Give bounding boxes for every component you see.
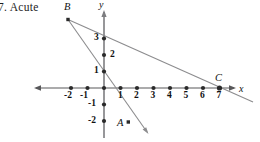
y-tick-label-3: 3 — [94, 32, 99, 42]
x-tick-label-4: 4 — [167, 90, 172, 100]
y-tick-label--2: -2 — [88, 115, 96, 125]
x-tick-label--1: -1 — [80, 90, 88, 100]
point-label-c: C — [215, 72, 222, 83]
x-tick-label-5: 5 — [184, 90, 189, 100]
point-label-b: B — [64, 1, 70, 12]
x-tick-label--2: -2 — [64, 90, 72, 100]
point-label-a: A — [117, 117, 123, 128]
x-tick-label-2: 2 — [134, 90, 139, 100]
ray-ba — [68, 20, 149, 135]
x-axis-label: x — [239, 83, 243, 94]
x-tick-label-6: 6 — [200, 90, 205, 100]
y-tick-label--1: -1 — [88, 98, 96, 108]
y-tick-label-1: 1 — [94, 65, 99, 75]
x-tick-label-3: 3 — [151, 90, 156, 100]
x-tick-label-1: 1 — [118, 90, 123, 100]
y-tick-label-2: 2 — [110, 49, 115, 59]
coordinate-plane-graphic — [0, 0, 260, 142]
y-axis-label: y — [99, 0, 103, 10]
figure-container: 7. Acute — [0, 0, 260, 142]
x-tick-label-7: 7 — [217, 90, 222, 100]
